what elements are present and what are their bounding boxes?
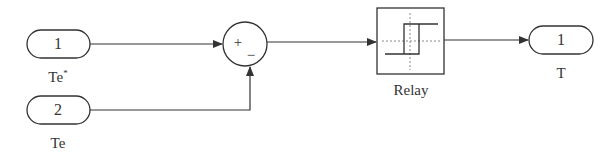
sum-minus-sign: − — [247, 47, 255, 64]
inport-1-label: Te* — [48, 68, 67, 86]
outport-1-label: T — [556, 65, 565, 82]
sum-block[interactable] — [223, 22, 267, 66]
inport-2-label: Te — [51, 135, 66, 152]
inport-2-number: 2 — [54, 101, 62, 119]
sum-plus-sign: + — [234, 34, 242, 51]
relay-hysteresis-icon — [382, 13, 440, 70]
relay-label: Relay — [394, 82, 429, 99]
inport-1-label-sup: * — [63, 68, 68, 78]
signal-line-te[interactable] — [90, 67, 250, 110]
inport-1-label-text: Te — [48, 69, 63, 85]
diagram-canvas — [0, 0, 613, 163]
inport-1-number: 1 — [54, 35, 62, 53]
outport-1-number: 1 — [557, 31, 565, 49]
